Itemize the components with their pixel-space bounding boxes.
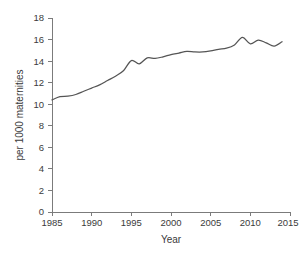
x-axis-title: Year <box>161 234 182 245</box>
x-axis-ticks: 1985 1990 1995 2000 2005 2010 2015 <box>41 212 298 228</box>
chart-figure: 0 2 4 6 8 10 12 14 16 18 1985 1990 1995 … <box>0 0 308 258</box>
x-tick-label-2010: 2010 <box>240 217 261 228</box>
x-tick-label-1990: 1990 <box>81 217 102 228</box>
y-tick-label-18: 18 <box>33 12 44 23</box>
y-axis-ticks: 0 2 4 6 8 10 12 14 16 18 <box>33 12 52 217</box>
y-tick-label-0: 0 <box>39 206 44 217</box>
y-tick-label-8: 8 <box>39 120 44 131</box>
y-tick-label-6: 6 <box>39 142 44 153</box>
x-tick-label-1985: 1985 <box>41 217 62 228</box>
y-tick-label-14: 14 <box>33 56 44 67</box>
y-tick-label-12: 12 <box>33 77 44 88</box>
y-axis-title: per 1000 maternities <box>14 69 25 160</box>
x-tick-label-2015: 2015 <box>277 217 298 228</box>
x-tick-label-2005: 2005 <box>200 217 221 228</box>
x-tick-label-1995: 1995 <box>121 217 142 228</box>
data-line-series-0 <box>52 37 282 100</box>
figure-caption <box>0 249 308 258</box>
y-tick-label-2: 2 <box>39 185 44 196</box>
y-tick-label-4: 4 <box>39 163 44 174</box>
line-chart-svg: 0 2 4 6 8 10 12 14 16 18 1985 1990 1995 … <box>0 0 308 258</box>
y-tick-label-10: 10 <box>33 99 44 110</box>
x-tick-label-2000: 2000 <box>160 217 181 228</box>
y-tick-label-16: 16 <box>33 34 44 45</box>
